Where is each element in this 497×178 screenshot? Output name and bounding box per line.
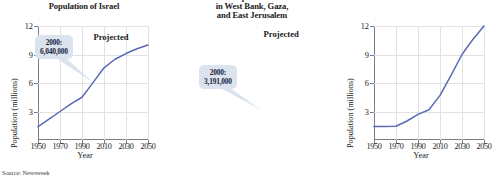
callout-year: 2000: — [46, 38, 62, 47]
page-title-west-bank-gaza: Population in West Bank, Gaza, and East … — [168, 0, 336, 21]
gridline-vertical — [148, 26, 149, 140]
x-axis-label: Year — [366, 151, 476, 160]
x-tick-label: 2050 — [471, 142, 497, 151]
plot-area-west-bank-gaza: 19501970199020102030205036912 — [374, 26, 484, 140]
page-title-israel: Population of Israel — [0, 2, 168, 11]
y-tick-label: 9 — [11, 50, 33, 59]
source-note: Source: Newsweek — [2, 169, 50, 176]
data-series-line — [374, 26, 484, 127]
callout-israel: 2000: 6,040,000 — [35, 35, 73, 59]
y-tick-label: 3 — [347, 107, 369, 116]
gridline-vertical — [484, 26, 485, 140]
y-tick-label: 3 — [11, 107, 33, 116]
callout-year: 2000: — [210, 68, 226, 77]
callout-value: 6,040,000 — [40, 47, 68, 56]
y-tick-label: 12 — [347, 22, 369, 31]
title-line: and East Jerusalem — [168, 11, 336, 20]
title-line: Population of Israel — [0, 2, 168, 11]
projected-annotation: Projected — [264, 29, 299, 39]
series-layer — [374, 26, 484, 140]
chart-panel-west-bank-gaza: Population in West Bank, Gaza, and East … — [168, 0, 336, 178]
callout-west-bank-gaza: 2000: 3,191,000 — [199, 65, 237, 89]
y-tick-label: 6 — [347, 79, 369, 88]
y-tick-label: 6 — [11, 79, 33, 88]
y-tick-label: 9 — [347, 50, 369, 59]
x-tick-label: 2050 — [135, 142, 161, 151]
callout-value: 3,191,000 — [204, 77, 232, 86]
projected-annotation: Projected — [93, 32, 128, 42]
y-tick-label: 12 — [11, 22, 33, 31]
chart-panel-israel: Population of Israel Population (million… — [0, 0, 168, 178]
x-axis-label: Year — [30, 151, 140, 160]
